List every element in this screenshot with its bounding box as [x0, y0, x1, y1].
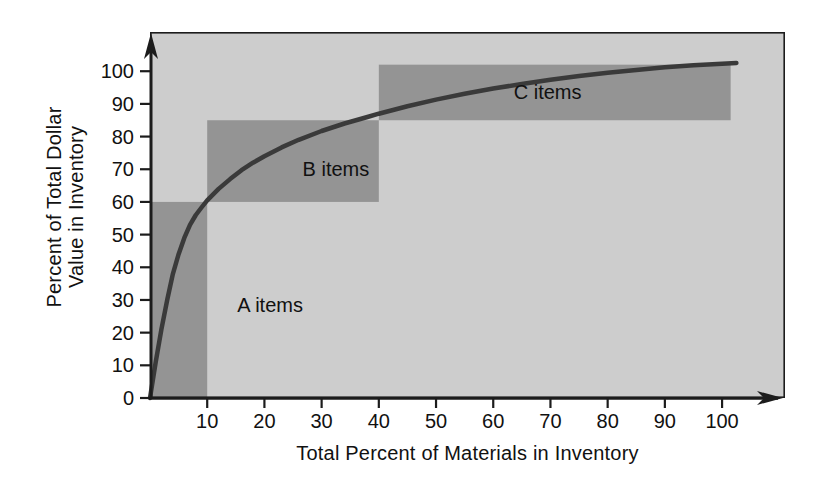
y-axis-title-line1: Percent of Total Dollar	[43, 107, 65, 308]
x-tick-label: 40	[368, 410, 390, 432]
x-tick-label: 100	[705, 410, 738, 432]
y-axis-title: Percent of Total Dollar Value in Invento…	[43, 107, 87, 308]
y-tick-label: 60	[112, 191, 134, 213]
y-tick-label: 20	[112, 322, 134, 344]
y-tick-label: 100	[101, 60, 134, 82]
x-tick-label: 70	[539, 410, 561, 432]
label-c-items: C items	[514, 81, 582, 103]
x-tick-label: 30	[310, 410, 332, 432]
x-axis-title: Total Percent of Materials in Inventory	[150, 442, 785, 465]
x-tick-label: 50	[425, 410, 447, 432]
label-a-items: A items	[237, 294, 303, 316]
y-tick-label: 50	[112, 224, 134, 246]
x-tick-label: 60	[482, 410, 504, 432]
region-a-items	[150, 202, 207, 398]
abc-analysis-figure: 0102030405060708090100102030405060708090…	[0, 0, 825, 490]
x-tick-label: 10	[196, 410, 218, 432]
y-tick-label: 30	[112, 289, 134, 311]
y-axis-title-line2: Value in Inventory	[65, 107, 87, 308]
y-tick-label: 10	[112, 354, 134, 376]
x-tick-label: 80	[597, 410, 619, 432]
x-tick-label: 20	[253, 410, 275, 432]
label-b-items: B items	[303, 158, 370, 180]
chart-plot: 0102030405060708090100102030405060708090…	[0, 0, 825, 490]
y-tick-label: 0	[123, 387, 134, 409]
y-tick-label: 90	[112, 93, 134, 115]
y-tick-label: 80	[112, 126, 134, 148]
y-tick-label: 40	[112, 256, 134, 278]
x-tick-label: 90	[654, 410, 676, 432]
y-tick-label: 70	[112, 158, 134, 180]
